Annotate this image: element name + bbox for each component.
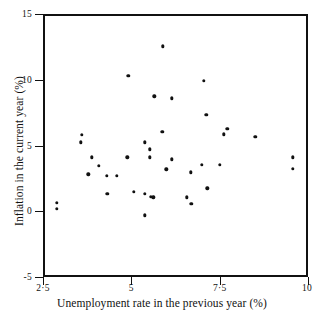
y-axis-tick-10 — [35, 80, 43, 81]
data-point — [161, 45, 164, 48]
data-point — [152, 95, 155, 98]
data-point — [200, 163, 203, 166]
scatter-plot-figure: 15 10 5 0 -5 2·5 5 7·5 10 Unemployment r… — [0, 0, 324, 320]
data-point — [185, 196, 188, 199]
y-axis-label-5: 5 — [27, 141, 32, 151]
data-point — [148, 148, 151, 151]
data-point — [127, 74, 130, 77]
y-axis-label-minus-5: -5 — [23, 272, 32, 282]
data-point — [291, 167, 294, 170]
y-axis-label-15: 15 — [22, 9, 32, 19]
data-point — [90, 156, 93, 159]
data-point — [205, 187, 208, 190]
data-point — [291, 156, 294, 159]
data-point — [164, 167, 167, 170]
data-point — [161, 130, 164, 133]
data-point — [87, 173, 90, 176]
data-point — [132, 190, 135, 193]
x-axis-title: Unemployment rate in the previous year (… — [0, 297, 324, 309]
y-axis-tick-15 — [35, 14, 43, 15]
data-point — [80, 133, 83, 136]
data-point — [55, 201, 58, 204]
data-points-layer — [45, 16, 306, 275]
data-point — [152, 196, 155, 199]
data-point — [254, 135, 257, 138]
x-axis-label-2-5: 2·5 — [36, 283, 50, 293]
data-point — [190, 202, 193, 205]
data-point — [202, 79, 205, 82]
y-axis-tick-0 — [35, 211, 43, 212]
x-axis-label-10: 10 — [302, 283, 312, 293]
data-point — [222, 133, 225, 136]
y-axis-tick-5 — [35, 146, 43, 147]
y-axis-tick-minus-5 — [35, 277, 43, 278]
data-point — [55, 207, 58, 210]
data-point — [97, 164, 100, 167]
data-point — [143, 141, 146, 144]
plot-area — [43, 14, 308, 277]
data-point — [226, 127, 229, 130]
data-point — [170, 158, 173, 161]
data-point — [189, 171, 192, 174]
y-axis-label-0: 0 — [27, 206, 32, 216]
data-point — [170, 96, 173, 99]
data-point — [105, 174, 108, 177]
data-point — [204, 113, 207, 116]
data-point — [79, 141, 82, 144]
x-axis-label-5: 5 — [129, 283, 134, 293]
y-axis-title: Inflation in the current year (%) — [13, 36, 25, 266]
data-point — [148, 156, 151, 159]
data-point — [143, 192, 146, 195]
data-point — [126, 156, 129, 159]
data-point — [218, 163, 221, 166]
data-point — [115, 174, 118, 177]
data-point — [105, 192, 108, 195]
data-point — [143, 214, 146, 217]
x-axis-label-7-5: 7·5 — [213, 283, 227, 293]
